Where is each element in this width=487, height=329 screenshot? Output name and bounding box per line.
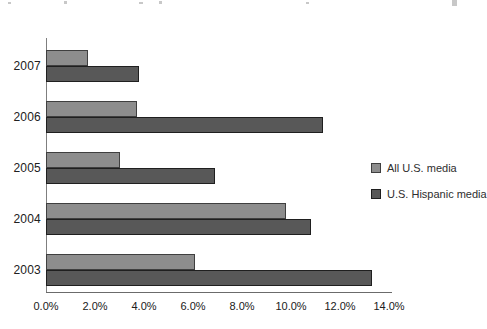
category-label: 2006: [0, 109, 41, 125]
legend-label: All U.S. media: [387, 162, 457, 174]
legend-swatch-icon: [371, 163, 381, 173]
legend-label: U.S. Hispanic media: [387, 188, 487, 200]
category-label: 2003: [0, 262, 41, 278]
bar-u-s-hispanic-media-2007: [46, 66, 139, 82]
legend-item: U.S. Hispanic media: [371, 185, 487, 203]
x-axis-tick-label: 6.0%: [171, 300, 215, 313]
bar-u-s-hispanic-media-2003: [46, 270, 372, 286]
bar-u-s-hispanic-media-2004: [46, 219, 311, 235]
legend: All U.S. mediaU.S. Hispanic media: [371, 159, 487, 211]
bar-u-s-hispanic-media-2005: [46, 168, 215, 184]
x-axis-tick-label: 2.0%: [73, 300, 117, 313]
x-axis-tick-label: 4.0%: [122, 300, 166, 313]
x-axis-tick-label: 14.0%: [367, 300, 411, 313]
x-axis-tick-label: 10.0%: [269, 300, 313, 313]
x-axis-tick-label: 0.0%: [24, 300, 68, 313]
category-label: 2007: [0, 58, 41, 74]
x-axis-line: [46, 292, 392, 293]
bar-all-u-s-media-2004: [46, 203, 286, 219]
category-label: 2005: [0, 160, 41, 176]
legend-item: All U.S. media: [371, 159, 487, 177]
legend-swatch-icon: [371, 189, 381, 199]
bar-all-u-s-media-2007: [46, 50, 88, 66]
bar-all-u-s-media-2003: [46, 254, 195, 270]
x-axis-tick-label: 12.0%: [318, 300, 362, 313]
bar-all-u-s-media-2006: [46, 101, 137, 117]
bar-all-u-s-media-2005: [46, 152, 120, 168]
category-label: 2004: [0, 211, 41, 227]
x-axis-tick-label: 8.0%: [220, 300, 264, 313]
bar-u-s-hispanic-media-2006: [46, 117, 323, 133]
